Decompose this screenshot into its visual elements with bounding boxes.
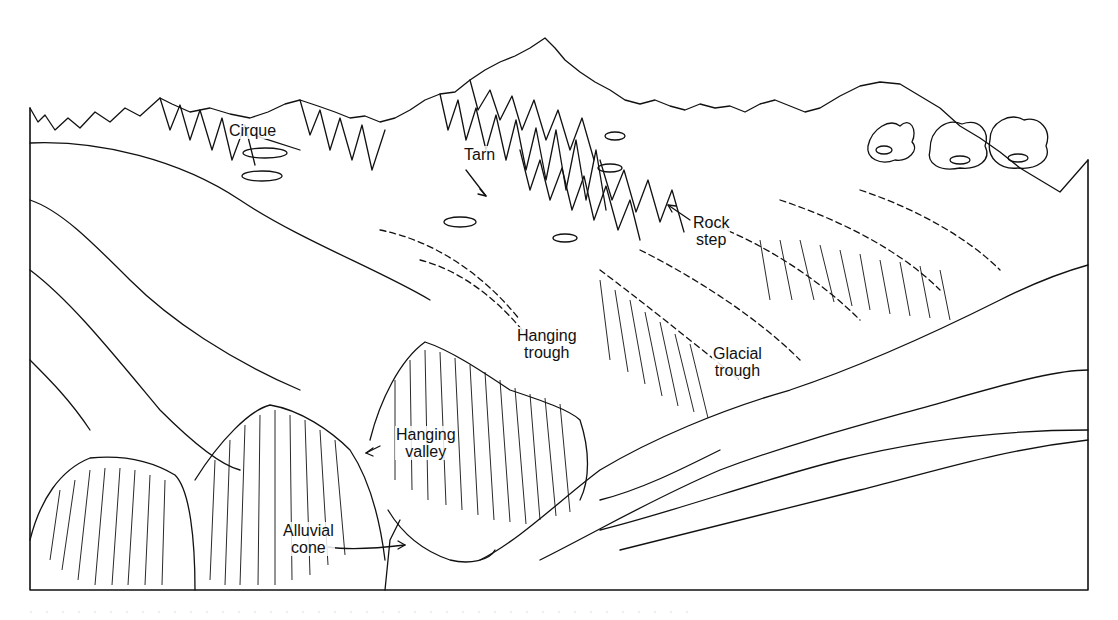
glacial-landforms-diagram: Cirque Tarn Rock step Hanging trough Gla… bbox=[0, 0, 1118, 620]
rock-step-arrow bbox=[668, 205, 690, 220]
label-hanging-trough: Hanging trough bbox=[516, 327, 578, 361]
label-alluvial-cone: Alluvial cone bbox=[282, 522, 335, 556]
alluvial-cone-arrow bbox=[328, 545, 405, 548]
label-hanging-valley: Hanging valley bbox=[395, 426, 457, 460]
label-rock-step: Rock step bbox=[692, 214, 730, 248]
label-tarn: Tarn bbox=[463, 146, 496, 163]
label-cirque: Cirque bbox=[228, 122, 277, 139]
label-glacial-trough: Glacial trough bbox=[712, 345, 763, 379]
landscape-drawing bbox=[0, 0, 1118, 620]
